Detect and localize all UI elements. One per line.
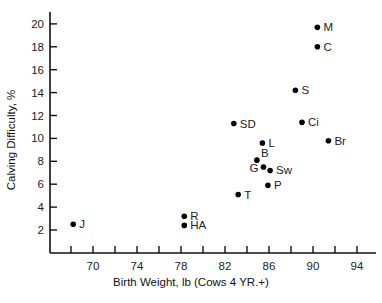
point-marker-icon [260, 140, 266, 146]
data-point: S [293, 84, 310, 96]
x-tick-label: 86 [263, 260, 276, 272]
data-point: C [315, 41, 332, 53]
point-marker-icon [182, 223, 188, 229]
y-tick-label: 4 [38, 201, 45, 213]
data-point: J [70, 218, 85, 230]
x-tick-label: 82 [219, 260, 232, 272]
point-marker-icon [261, 164, 267, 170]
point-label: Br [334, 135, 346, 147]
data-point: HA [182, 219, 207, 231]
y-tick-label: 8 [38, 155, 44, 167]
point-label: T [244, 189, 251, 201]
point-marker-icon [315, 44, 321, 50]
point-label: Ci [308, 116, 319, 128]
point-marker-icon [315, 25, 321, 31]
x-tick-label: 78 [175, 260, 188, 272]
point-marker-icon [299, 120, 305, 126]
y-tick-label: 18 [31, 41, 44, 53]
data-point: SD [231, 118, 256, 130]
point-label: HA [190, 219, 206, 231]
data-point: Sw [267, 164, 292, 176]
point-marker-icon [235, 192, 241, 198]
x-tick-label: 90 [307, 260, 320, 272]
x-tick-label: 70 [87, 260, 100, 272]
data-point: P [265, 179, 282, 191]
data-point: M [315, 21, 333, 33]
point-label: P [274, 179, 282, 191]
y-tick-label: 12 [31, 110, 44, 122]
data-point: T [235, 189, 251, 201]
y-tick-label: 16 [31, 64, 44, 76]
y-tick-label: 6 [38, 178, 44, 190]
point-label: C [323, 41, 331, 53]
point-marker-icon [231, 121, 237, 127]
scatter-chart: 246810121416182070747882869094 JRHASDTBL… [0, 0, 382, 303]
data-point: Ci [299, 116, 319, 128]
point-label: Sw [276, 164, 293, 176]
point-label: J [79, 218, 85, 230]
data-point: Br [326, 135, 346, 147]
y-tick-label: 14 [31, 87, 44, 99]
point-marker-icon [182, 213, 188, 219]
data-points: JRHASDTBLGPSwSCiMCBr [70, 21, 346, 231]
point-label: L [268, 137, 275, 149]
point-label: S [301, 84, 309, 96]
point-marker-icon [326, 138, 332, 144]
point-label: M [323, 21, 333, 33]
x-tick-label: 94 [351, 260, 364, 272]
y-tick-label: 2 [38, 224, 44, 236]
y-axis-label: Calving Difficulty, % [5, 90, 17, 191]
point-label: SD [240, 118, 256, 130]
y-tick-label: 20 [31, 18, 44, 30]
x-axis-label: Birth Weight, lb (Cows 4 YR.+) [0, 276, 382, 288]
point-marker-icon [70, 221, 76, 227]
data-point: B [254, 147, 269, 163]
y-tick-label: 10 [31, 132, 44, 144]
point-marker-icon [267, 168, 273, 174]
x-tick-label: 74 [131, 260, 144, 272]
point-label: G [250, 162, 259, 174]
point-marker-icon [293, 88, 299, 94]
point-marker-icon [265, 183, 271, 189]
y-axis-label-container: Calving Difficulty, % [3, 60, 19, 220]
data-point: G [250, 162, 267, 174]
